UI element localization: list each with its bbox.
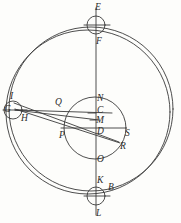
point-label-L: L [96,209,101,219]
geometric-diagram-figure: E F I G H Q N C M D P S R O K B L [0,0,181,223]
point-label-K: K [97,176,103,186]
point-label-E: E [95,3,101,13]
point-label-H: H [21,114,28,124]
point-label-G: G [4,105,11,115]
point-label-F: F [96,37,102,47]
point-label-N: N [97,94,103,104]
point-label-O: O [97,155,104,165]
diagram-canvas [0,0,181,223]
point-label-B: B [108,183,114,193]
point-label-I: I [10,92,13,102]
point-label-R: R [120,142,126,152]
point-label-M: M [96,116,104,126]
point-label-D: D [97,127,104,137]
point-label-P: P [59,131,65,141]
point-label-Q: Q [55,98,62,108]
outer-deferent-circle [9,27,173,191]
point-label-S: S [125,129,130,139]
